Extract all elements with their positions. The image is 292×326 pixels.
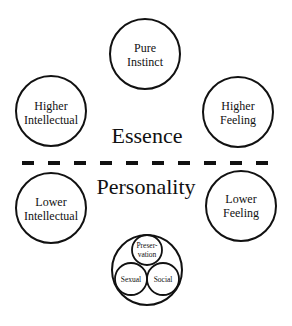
sexual-label: Sexual: [121, 275, 141, 284]
preservation-circle: Preser- vation: [132, 235, 162, 265]
lower-intellectual-line1: Lower: [35, 195, 66, 209]
lower-feeling-line2: Feeling: [223, 206, 259, 220]
lower-feeling-circle: Lower Feeling: [206, 171, 276, 241]
higher-intellectual-line2: Intellectual: [24, 113, 79, 127]
personality-label: Personality: [97, 174, 196, 199]
social-circle: Social: [147, 263, 179, 295]
pure-instinct-circle: Pure Instinct: [110, 19, 180, 89]
higher-feeling-line2: Feeling: [220, 113, 256, 127]
essence-personality-diagram: Pure Instinct Higher Intellectual Higher…: [0, 0, 292, 326]
sexual-circle: Sexual: [115, 263, 147, 295]
instinct-center: Preser- vation Sexual Social: [112, 235, 182, 305]
lower-feeling-line1: Lower: [225, 192, 256, 206]
higher-intellectual-circle: Higher Intellectual: [16, 76, 86, 146]
social-label: Social: [154, 275, 173, 284]
essence-label: Essence: [112, 123, 183, 148]
higher-feeling-line1: Higher: [221, 99, 254, 113]
higher-intellectual-line1: Higher: [34, 99, 67, 113]
pure-instinct-line1: Pure: [134, 41, 156, 55]
lower-intellectual-line2: Intellectual: [24, 209, 79, 223]
pure-instinct-line2: Instinct: [127, 55, 164, 69]
preservation-line2: vation: [138, 250, 157, 259]
lower-intellectual-circle: Lower Intellectual: [16, 173, 86, 243]
preservation-line1: Preser-: [136, 241, 158, 250]
higher-feeling-circle: Higher Feeling: [203, 77, 273, 147]
